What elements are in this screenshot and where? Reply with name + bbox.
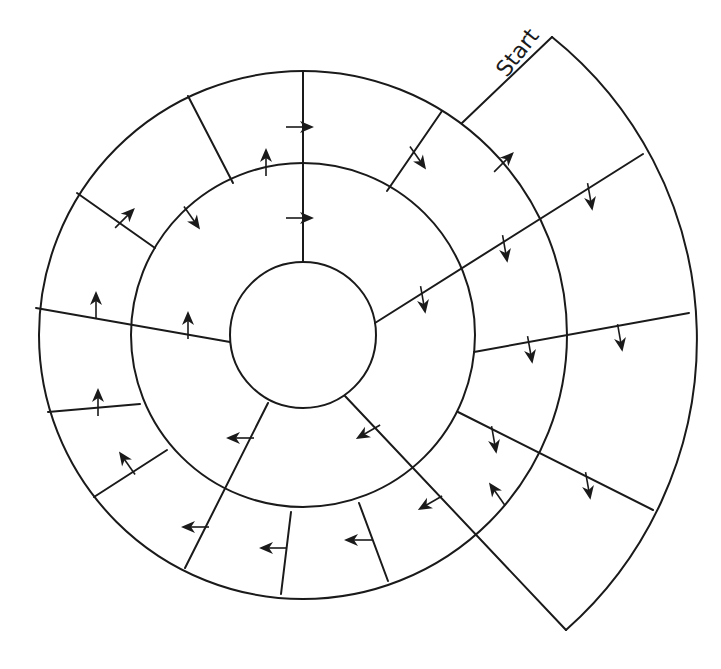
maze-rings bbox=[39, 37, 697, 630]
inner-circle bbox=[230, 262, 376, 408]
wall-top-left bbox=[188, 96, 233, 183]
arrow-left-icon bbox=[181, 521, 209, 533]
direction-arrows bbox=[90, 121, 628, 554]
arrow-down-icon bbox=[522, 335, 539, 365]
wall-lower-right bbox=[458, 412, 653, 510]
wall-bottom-1 bbox=[281, 512, 291, 594]
wall-upper-left bbox=[77, 193, 155, 248]
arrow-down-icon bbox=[497, 234, 514, 264]
wall-bottom-2 bbox=[359, 503, 388, 581]
arrow-right-icon bbox=[286, 121, 314, 133]
maze-walls bbox=[36, 72, 689, 630]
wall-right bbox=[474, 313, 689, 352]
circular-maze bbox=[0, 0, 721, 669]
arrow-down-left-icon bbox=[415, 491, 445, 515]
arrow-left-icon bbox=[344, 534, 372, 546]
wall-upper-right bbox=[387, 111, 442, 191]
arrow-up-icon bbox=[260, 148, 272, 176]
arrow-right-icon bbox=[286, 212, 314, 224]
arrow-up-left-icon bbox=[114, 448, 140, 478]
arrow-left-icon bbox=[259, 542, 287, 554]
arrow-up-icon bbox=[90, 291, 102, 319]
arrow-down-icon bbox=[580, 471, 597, 501]
wall-upper-right-long bbox=[375, 154, 643, 323]
arrow-down-right-icon bbox=[179, 203, 205, 233]
wall-lower-left-1 bbox=[48, 404, 140, 412]
arrow-left-icon bbox=[226, 432, 254, 444]
arrow-up-icon bbox=[92, 388, 104, 416]
arrow-down-icon bbox=[612, 323, 629, 353]
wall-lower-left-2 bbox=[94, 450, 167, 497]
wall-lower-right-diag bbox=[345, 396, 566, 630]
wall-lower-long bbox=[185, 403, 268, 568]
